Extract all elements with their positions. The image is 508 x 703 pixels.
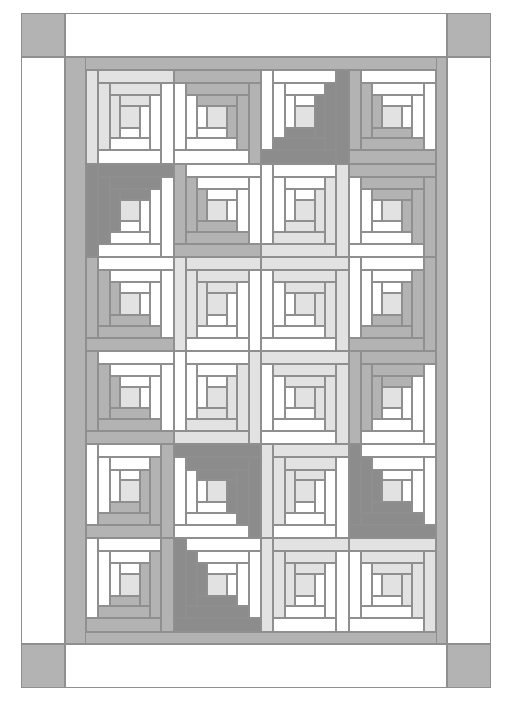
log-strip-shade-right	[261, 257, 349, 270]
log-strip-shade-bottom	[110, 83, 162, 95]
log-strip-light-left	[424, 364, 436, 444]
log-strip-light-left	[273, 83, 284, 138]
log-strip-shade-bottom	[424, 177, 436, 257]
log-strip-light-left	[98, 351, 173, 364]
log-strip-light-left	[325, 470, 336, 525]
log-strip-shade-bottom	[86, 525, 161, 538]
log-strip-shade-right	[174, 618, 262, 631]
log-strip-shade-right	[197, 95, 237, 106]
log-strip-center	[207, 293, 227, 315]
log-strip-light-left	[237, 282, 248, 337]
log-strip-light-top	[150, 376, 161, 419]
log-strip-light-left	[349, 618, 424, 631]
log-strip-shade-right	[197, 596, 237, 607]
log-cabin-block	[174, 257, 262, 351]
log-strip-light-left	[110, 470, 120, 502]
log-strip-light-left	[150, 95, 161, 150]
log-strip-shade-right	[273, 551, 284, 618]
log-cabin-block	[349, 164, 437, 258]
log-strip-shade-bottom	[349, 444, 361, 524]
log-strip-light-top	[161, 270, 173, 337]
log-strip-shade-right	[186, 232, 249, 244]
log-strip-shade-right	[273, 457, 284, 524]
log-strip-light-top	[273, 525, 336, 538]
log-strip-shade-bottom	[98, 164, 173, 177]
log-strip-light-left	[140, 106, 150, 138]
log-strip-shade-bottom	[86, 257, 98, 337]
log-strip-light-top	[98, 444, 161, 457]
log-strip-light-top	[372, 574, 382, 596]
log-strip-light-top	[186, 470, 197, 513]
log-strip-light-left	[261, 338, 336, 351]
log-strip-shade-right	[197, 282, 207, 325]
log-strip-shade-bottom	[86, 351, 98, 431]
log-strip-light-top	[295, 189, 315, 200]
log-strip-shade-right	[161, 538, 173, 632]
log-strip-light-top	[98, 538, 161, 551]
log-strip-light-left	[325, 563, 336, 618]
log-strip-light-left	[273, 326, 325, 338]
log-cabin-block	[174, 351, 262, 445]
log-cabin-block	[86, 351, 174, 445]
log-strip-light-left	[372, 457, 424, 469]
log-strip-shade-right	[110, 408, 150, 419]
log-strip-light-top	[140, 387, 150, 409]
log-strip-shade-right	[86, 164, 98, 258]
log-strip-shade-bottom	[372, 315, 402, 326]
log-strip-shade-right	[361, 513, 424, 525]
log-strip-light-left	[186, 364, 197, 419]
log-strip-shade-right	[98, 83, 109, 150]
log-strip-light-left	[161, 177, 173, 257]
log-strip-shade-right	[237, 364, 248, 431]
log-strip-shade-bottom	[174, 538, 186, 618]
log-strip-light-top	[110, 551, 150, 563]
log-strip-light-left	[273, 177, 284, 232]
log-strip-center	[382, 480, 402, 502]
log-cabin-block	[349, 538, 437, 632]
log-strip-light-left	[285, 315, 315, 326]
log-strip-shade-bottom	[237, 470, 248, 525]
log-strip-light-left	[140, 200, 150, 232]
log-strip-shade-bottom	[349, 70, 361, 150]
log-strip-light-left	[98, 457, 109, 512]
log-strip-light-top	[174, 83, 186, 150]
log-strip-light-top	[110, 232, 150, 244]
log-strip-light-top	[285, 293, 295, 315]
log-cabin-block	[349, 351, 437, 445]
log-cabin-block	[261, 351, 349, 445]
log-strip-shade-right	[140, 563, 150, 606]
log-strip-light-left	[361, 606, 413, 618]
log-strip-center	[295, 387, 315, 409]
log-strip-shade-bottom	[372, 95, 382, 127]
log-strip-shade-bottom	[120, 95, 150, 106]
corner-top-right	[447, 13, 491, 57]
log-strip-shade-bottom	[197, 189, 207, 221]
log-strip-shade-bottom	[382, 376, 412, 387]
log-cabin-block	[86, 538, 174, 632]
log-strip-shade-bottom	[273, 444, 348, 457]
log-strip-light-left	[361, 444, 436, 457]
log-strip-shade-bottom	[372, 364, 424, 376]
log-strip-shade-right	[110, 315, 150, 326]
log-strip-shade-right	[174, 444, 262, 457]
log-strip-shade-right	[325, 83, 336, 150]
log-strip-shade-bottom	[110, 177, 162, 189]
log-strip-shade-right	[372, 376, 382, 419]
log-strip-shade-right	[402, 282, 412, 325]
log-strip-shade-right	[315, 189, 325, 232]
corner-top-left	[21, 13, 65, 57]
log-strip-shade-right	[249, 351, 261, 445]
log-strip-light-left	[285, 95, 295, 127]
log-strip-light-top	[261, 364, 273, 431]
log-strip-shade-bottom	[315, 293, 325, 325]
log-strip-light-left	[86, 538, 98, 618]
log-strip-shade-bottom	[237, 95, 248, 150]
log-strip-light-top	[424, 83, 436, 150]
log-strip-shade-bottom	[249, 83, 261, 163]
log-strip-shade-right	[197, 221, 237, 232]
log-strip-light-left	[174, 351, 186, 431]
log-cabin-block	[349, 444, 437, 538]
log-strip-shade-bottom	[261, 150, 336, 163]
log-strip-light-left	[285, 408, 315, 419]
log-strip-shade-bottom	[197, 270, 249, 282]
